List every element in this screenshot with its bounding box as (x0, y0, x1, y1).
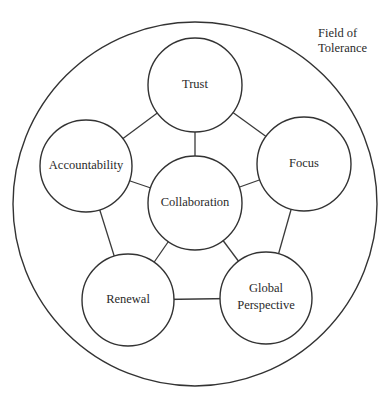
node-label-global: Global (249, 281, 284, 295)
field-label-line-2: Tolerance (318, 41, 367, 56)
node-global: GlobalPerspective (220, 252, 312, 344)
node-collaboration: Collaboration (148, 156, 242, 250)
node-label-collaboration: Collaboration (161, 195, 230, 209)
node-trust: Trust (148, 38, 242, 132)
node-renewal: Renewal (82, 254, 174, 346)
node-label-focus: Focus (289, 156, 319, 170)
node-label-trust: Trust (182, 77, 208, 91)
field-of-tolerance-label: Field of Tolerance (318, 26, 367, 56)
node-focus: Focus (257, 117, 351, 211)
node-label-renewal: Renewal (106, 292, 150, 306)
values-diagram: TrustFocusGlobalPerspectiveRenewalAccoun… (0, 0, 388, 401)
node-accountability: Accountability (40, 120, 132, 212)
field-label-line-1: Field of (318, 26, 367, 41)
nodes: TrustFocusGlobalPerspectiveRenewalAccoun… (40, 38, 351, 346)
node-label-global: Perspective (237, 298, 295, 312)
node-label-accountability: Accountability (49, 158, 124, 172)
